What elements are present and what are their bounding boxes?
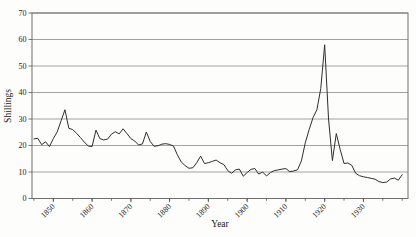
x-tick-label: 1920 <box>310 202 328 220</box>
chart-figure: 0102030405060701850186018701880189019001… <box>0 0 416 237</box>
x-tick-label: 1880 <box>155 202 173 220</box>
x-tick-label: 1870 <box>117 202 135 220</box>
series-line <box>34 45 402 183</box>
y-tick-label: 30 <box>19 115 27 124</box>
x-tick-label: 1930 <box>349 202 367 220</box>
y-tick-label: 10 <box>19 168 27 177</box>
y-tick-label: 20 <box>19 141 27 150</box>
y-tick-label: 70 <box>19 9 27 18</box>
x-tick-label: 1900 <box>233 202 251 220</box>
x-tick-label: 1850 <box>39 202 57 220</box>
line-chart-canvas: 0102030405060701850186018701880189019001… <box>0 0 416 237</box>
x-axis-title: Year <box>211 219 229 229</box>
y-tick-label: 40 <box>19 88 27 97</box>
x-tick-label: 1860 <box>78 202 96 220</box>
plot-frame <box>32 13 408 199</box>
x-tick-label: 1890 <box>194 202 212 220</box>
y-axis-title: Shillings <box>3 89 13 123</box>
x-tick-label: 1910 <box>272 202 290 220</box>
y-tick-label: 0 <box>23 194 27 203</box>
y-tick-label: 60 <box>19 35 27 44</box>
y-tick-label: 50 <box>19 62 27 71</box>
